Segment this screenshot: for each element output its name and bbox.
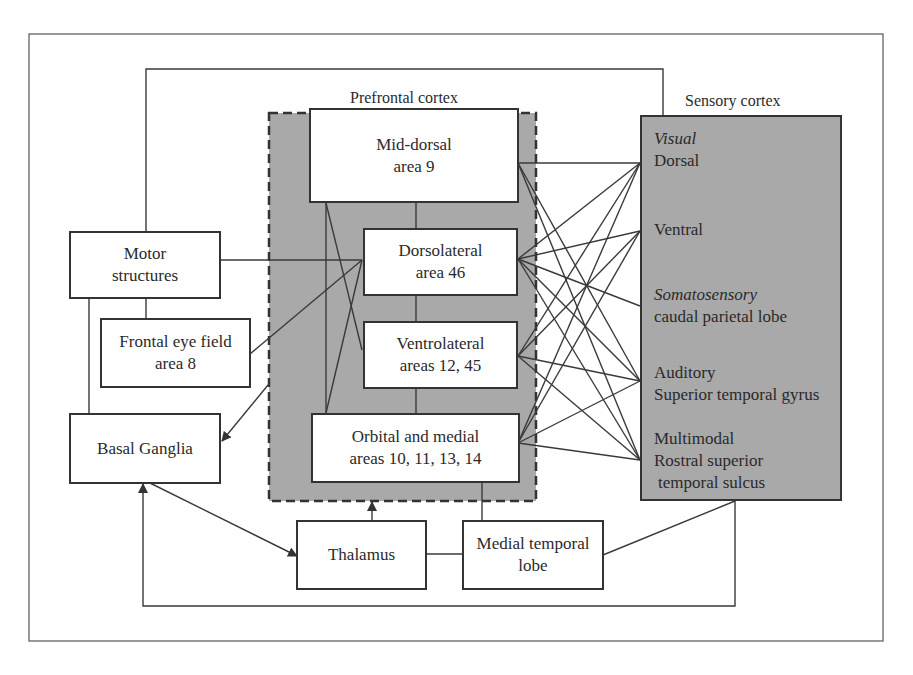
basal-ganglia-label: Basal Ganglia xyxy=(97,438,193,460)
mtl-label: Medial temporal xyxy=(477,533,590,555)
multimodal-category: Multimodal xyxy=(654,428,765,450)
dorsolateral-area: area 46 xyxy=(416,262,466,284)
motor-structures-box[interactable]: Motor structures xyxy=(69,231,221,299)
somatosensory-category: Somatosensory xyxy=(654,284,787,306)
motor-sub-label: structures xyxy=(112,265,178,287)
ventrolateral-area: areas 12, 45 xyxy=(400,355,482,377)
auditory-category: Auditory xyxy=(654,362,819,384)
medial-temporal-lobe-box[interactable]: Medial temporal lobe xyxy=(462,520,604,590)
somatosensory-sub: caudal parietal lobe xyxy=(654,306,787,328)
multimodal-sub2: temporal sulcus xyxy=(654,472,765,494)
sensory-visual-ventral[interactable]: Ventral xyxy=(654,219,703,241)
sensory-cortex-title: Sensory cortex xyxy=(685,92,781,110)
thalamus-box[interactable]: Thalamus xyxy=(296,520,427,590)
sensory-auditory[interactable]: Auditory Superior temporal gyrus xyxy=(654,362,819,406)
frontal-eye-field-box[interactable]: Frontal eye field area 8 xyxy=(100,318,251,388)
dorsolateral-box[interactable]: Dorsolateral area 46 xyxy=(363,228,518,296)
visual-category: Visual xyxy=(654,128,699,150)
prefrontal-to-basal-arrow xyxy=(222,385,268,441)
thalamus-label: Thalamus xyxy=(328,544,395,566)
visual-ventral: Ventral xyxy=(654,219,703,241)
orbital-medial-area: areas 10, 11, 13, 14 xyxy=(349,448,481,470)
multimodal-sub1: Rostral superior xyxy=(654,450,765,472)
motor-label: Motor xyxy=(124,243,167,265)
mtl-to-sensory xyxy=(603,501,735,555)
dorsolateral-label: Dorsolateral xyxy=(398,240,482,262)
sensory-multimodal[interactable]: Multimodal Rostral superior temporal sul… xyxy=(654,428,765,494)
orbital-medial-label: Orbital and medial xyxy=(352,426,479,448)
mid-dorsal-area: area 9 xyxy=(393,156,434,178)
mid-dorsal-box[interactable]: Mid-dorsal area 9 xyxy=(309,108,519,203)
orbital-medial-box[interactable]: Orbital and medial areas 10, 11, 13, 14 xyxy=(311,413,520,483)
sensory-visual[interactable]: Visual Dorsal xyxy=(654,128,699,172)
basal-ganglia-box[interactable]: Basal Ganglia xyxy=(69,413,221,484)
visual-dorsal: Dorsal xyxy=(654,150,699,172)
sensory-somatosensory[interactable]: Somatosensory caudal parietal lobe xyxy=(654,284,787,328)
fef-area: area 8 xyxy=(155,353,196,375)
prefrontal-cortex-title: Prefrontal cortex xyxy=(350,89,458,107)
sensory-to-basal-loop xyxy=(143,484,735,606)
mid-dorsal-label: Mid-dorsal xyxy=(376,134,452,156)
ventrolateral-label: Ventrolateral xyxy=(397,333,485,355)
mtl-sub-label: lobe xyxy=(518,555,547,577)
ventrolateral-box[interactable]: Ventrolateral areas 12, 45 xyxy=(363,321,518,389)
fef-label: Frontal eye field xyxy=(119,331,231,353)
auditory-sub: Superior temporal gyrus xyxy=(654,384,819,406)
